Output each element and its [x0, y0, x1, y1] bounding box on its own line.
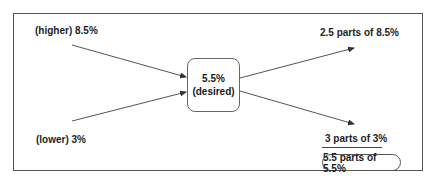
label-lower-rate: (lower) 3%: [36, 134, 86, 145]
arrow-lower-to-center: [72, 92, 186, 121]
center-value: 5.5%: [202, 72, 225, 85]
label-bottom-output: 3 parts of 3%: [325, 133, 387, 144]
arrow-center-to-bottom-output: [240, 91, 354, 124]
arrow-center-to-top-output: [240, 48, 354, 78]
sum-divider-line: [322, 147, 382, 148]
label-higher-rate: (higher) 8.5%: [35, 25, 98, 36]
center-caption: (desired): [192, 85, 234, 98]
arrow-higher-to-center: [72, 45, 186, 77]
label-total-output: 5.5 parts of 5.5%: [323, 152, 400, 174]
label-top-output: 2.5 parts of 8.5%: [320, 27, 399, 38]
total-output-pill: 5.5 parts of 5.5%: [322, 154, 401, 171]
center-desired-box: 5.5% (desired): [187, 58, 240, 112]
